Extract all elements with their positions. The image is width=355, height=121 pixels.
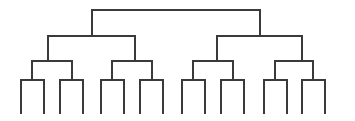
dendrogram-canvas (0, 0, 355, 121)
dendrogram-figure (0, 0, 355, 121)
